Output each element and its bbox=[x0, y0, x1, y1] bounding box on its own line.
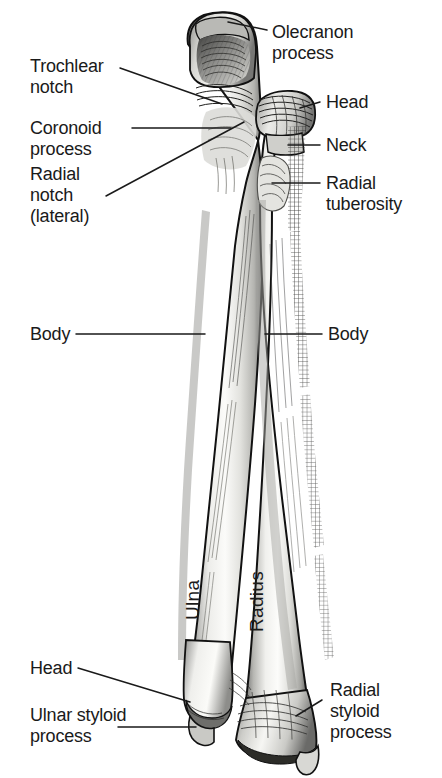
anatomical-figure: Olecranon process Trochlear notch Corono… bbox=[0, 0, 442, 778]
label-radial-styloid-process: Radial styloid process bbox=[330, 680, 392, 743]
label-head-left: Head bbox=[30, 658, 72, 679]
radius-crosshatch-lower bbox=[290, 230, 334, 660]
radius-crosshatch-border bbox=[288, 126, 308, 236]
leader-head-left bbox=[78, 668, 190, 702]
label-coronoid-process: Coronoid process bbox=[30, 118, 101, 160]
bone-name-ulna: Ulna bbox=[182, 580, 204, 620]
label-radial-notch-lateral: Radial notch (lateral) bbox=[30, 164, 89, 227]
label-trochlear-notch: Trochlear notch bbox=[30, 56, 104, 98]
ulna-bone bbox=[178, 12, 263, 745]
label-body-right: Body bbox=[328, 324, 368, 345]
label-olecranon-process: Olecranon process bbox=[272, 22, 353, 64]
label-neck: Neck bbox=[326, 135, 366, 156]
label-body-left: Body bbox=[30, 324, 70, 345]
label-head-right: Head bbox=[326, 92, 368, 113]
bone-name-radius: Radius bbox=[246, 571, 268, 632]
label-ulnar-styloid-process: Ulnar styloid process bbox=[30, 705, 126, 747]
label-radial-tuberosity: Radial tuberosity bbox=[326, 173, 402, 215]
